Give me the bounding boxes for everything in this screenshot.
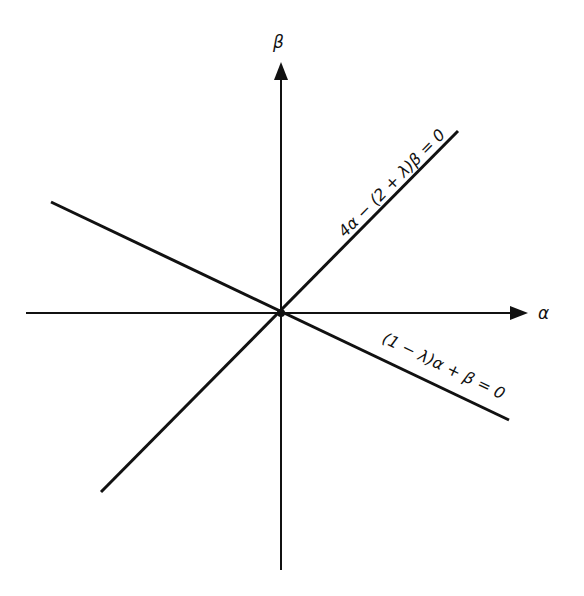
diagram-canvas: α β 4α − (2 + λ)β = 0 (1 − λ)α + β = 0: [0, 0, 584, 596]
alpha-axis-label: α: [538, 303, 549, 323]
beta-axis-arrowhead-icon: [274, 62, 288, 80]
origin-point: [277, 309, 285, 317]
beta-axis-label: β: [272, 32, 284, 52]
alpha-axis-arrowhead-icon: [510, 306, 528, 320]
line-positive-slope-label: 4α − (2 + λ)β = 0: [334, 125, 449, 241]
